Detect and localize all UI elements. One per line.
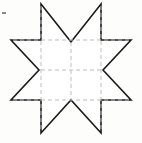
cross-star-polygon: [11, 4, 131, 133]
stray-speck-icon: [2, 12, 6, 14]
figure-canvas: [0, 0, 142, 143]
geometry-figure: [0, 0, 142, 143]
